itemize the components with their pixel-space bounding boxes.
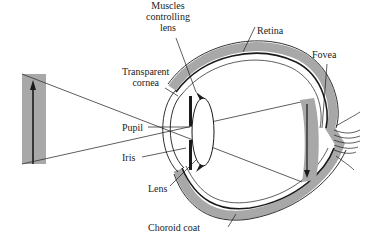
label-retina: Retina — [257, 25, 283, 36]
label-muscles: Muscles controlling lens — [146, 0, 190, 33]
label-muscles-line2: controlling — [146, 11, 190, 22]
label-choroid: Choroid coat — [148, 222, 200, 233]
label-muscles-line3: lens — [146, 22, 190, 33]
label-pupil: Pupil — [122, 122, 143, 133]
label-lens: Lens — [148, 183, 167, 194]
label-muscles-line1: Muscles — [146, 0, 190, 11]
label-cornea: Transparent cornea — [122, 66, 169, 88]
eye-diagram — [0, 0, 366, 244]
label-cornea-line1: Transparent — [122, 66, 169, 77]
label-iris: Iris — [122, 152, 135, 163]
light-rays — [22, 74, 310, 182]
object-arrow — [22, 74, 46, 164]
cornea — [163, 90, 184, 172]
lens — [192, 98, 214, 166]
label-cornea-line2: cornea — [122, 77, 169, 88]
retinal-image — [300, 98, 319, 182]
label-fovea: Fovea — [312, 49, 336, 60]
